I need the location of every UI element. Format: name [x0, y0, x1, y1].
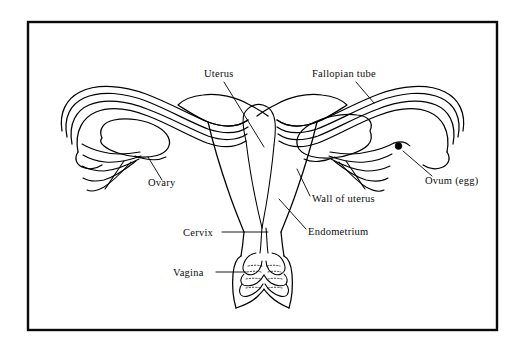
label-cervix: Cervix: [183, 227, 214, 238]
ovum-egg-dot: [395, 143, 402, 150]
label-ovum: Ovum (egg): [425, 175, 479, 187]
label-ovary: Ovary: [148, 177, 176, 188]
leader-ovum: [403, 151, 432, 176]
diagram-figure: Uterus Fallopian tube Ovary Ovum (egg) W…: [0, 0, 522, 352]
reproductive-system-diagram: Uterus Fallopian tube Ovary Ovum (egg) W…: [0, 0, 522, 352]
label-endometrium: Endometrium: [308, 226, 369, 237]
vaginal-rugae: [246, 265, 282, 288]
leader-lines: [148, 82, 432, 272]
vagina-canal: [233, 253, 293, 308]
left-fimbriae: [76, 144, 141, 191]
label-wall-of-uterus: Wall of uterus: [312, 193, 375, 204]
label-uterus: Uterus: [204, 68, 234, 79]
label-vagina: Vagina: [173, 267, 204, 278]
left-fallopian-tube: [61, 86, 248, 152]
endometrium-cavity: [243, 104, 275, 228]
label-fallopian-tube: Fallopian tube: [312, 68, 376, 79]
